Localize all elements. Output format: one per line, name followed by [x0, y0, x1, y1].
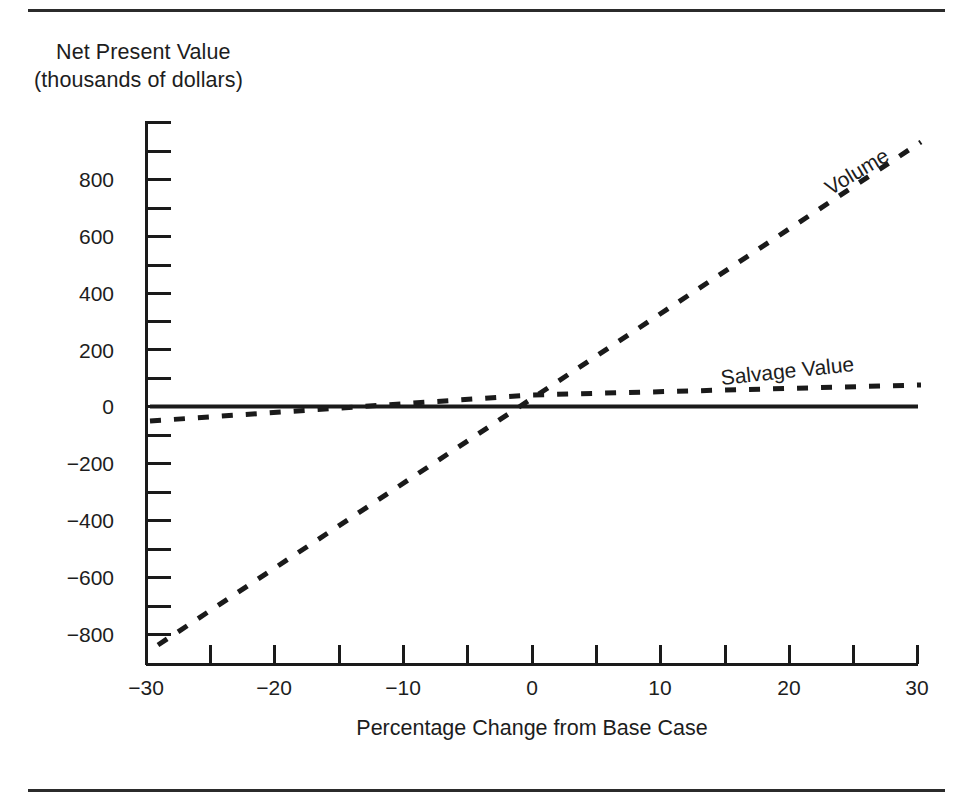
x-tick-label: 10	[620, 676, 700, 700]
x-tick-label: −30	[106, 676, 186, 700]
x-tick-label: 20	[749, 676, 829, 700]
y-tick-label: 600	[22, 225, 114, 249]
figure-container: Net Present Value (thousands of dollars)	[0, 0, 974, 808]
y-tick-label: 200	[22, 339, 114, 363]
series-line-salvage-value	[150, 385, 921, 421]
x-tick-label: 30	[877, 676, 957, 700]
y-tick-label: 0	[22, 395, 114, 419]
x-axis-title: Percentage Change from Base Case	[146, 716, 918, 741]
y-tick-label: −400	[22, 509, 114, 533]
y-tick-label: −800	[22, 623, 114, 647]
x-axis-ticks	[147, 645, 918, 664]
y-tick-label: 800	[22, 168, 114, 192]
x-tick-label: 0	[492, 676, 572, 700]
y-tick-label: −600	[22, 566, 114, 590]
x-tick-label: −10	[363, 676, 443, 700]
y-tick-label: −200	[22, 452, 114, 476]
x-tick-label: −20	[234, 676, 314, 700]
y-axis-minor-ticks	[146, 123, 171, 607]
y-tick-label: 400	[22, 282, 114, 306]
